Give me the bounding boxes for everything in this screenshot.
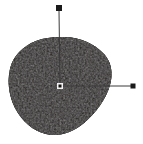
shape-annotation-canvas [0, 0, 143, 144]
centroid-inner-square [59, 85, 62, 88]
centroid-marker[interactable] [57, 83, 63, 89]
major-axis-endpoint-marker[interactable] [56, 5, 62, 11]
figure-svg [0, 0, 143, 144]
minor-axis-endpoint-marker[interactable] [131, 84, 136, 89]
